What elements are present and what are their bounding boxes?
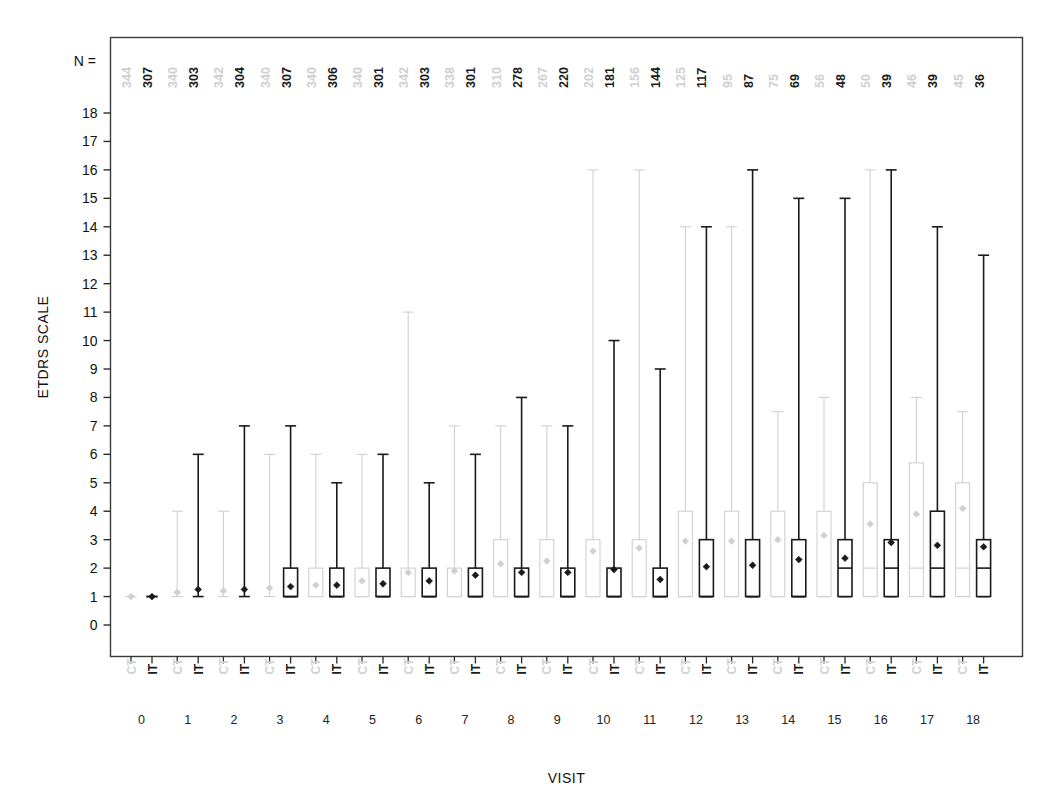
x-subgroup-label-ct-visit-7: CT bbox=[448, 658, 462, 675]
y-tick-label: 6 bbox=[90, 446, 98, 462]
n-value-ct-visit-8: 310 bbox=[490, 67, 504, 88]
box-it-visit-8 bbox=[515, 397, 529, 596]
y-tick-label: 3 bbox=[90, 532, 98, 548]
n-value-ct-visit-16: 50 bbox=[859, 74, 873, 88]
n-header: N =3443073403033423043403073403063403013… bbox=[74, 53, 987, 88]
x-subgroup-label-it-visit-4: IT bbox=[330, 663, 344, 674]
x-subgroup-label-it-visit-8: IT bbox=[515, 663, 529, 674]
mean-marker bbox=[174, 589, 181, 596]
n-value-ct-visit-15: 56 bbox=[813, 74, 827, 88]
box-rect bbox=[284, 568, 298, 596]
box-ct-visit-9 bbox=[540, 426, 554, 597]
mean-marker bbox=[149, 593, 156, 600]
x-group-label-15: 15 bbox=[828, 713, 842, 727]
n-value-ct-visit-18: 45 bbox=[952, 74, 966, 88]
x-group-label-16: 16 bbox=[874, 713, 888, 727]
box-rect bbox=[494, 540, 508, 597]
y-tick-label: 16 bbox=[82, 162, 98, 178]
n-equals-label: N = bbox=[74, 53, 96, 69]
n-value-it-visit-11: 144 bbox=[649, 67, 663, 88]
box-it-visit-9 bbox=[561, 426, 575, 597]
x-axis: CTIT0CTIT1CTIT2CTIT3CTIT4CTIT5CTIT6CTIT7… bbox=[125, 657, 992, 786]
x-group-label-4: 4 bbox=[323, 713, 330, 727]
box-ct-visit-3 bbox=[264, 454, 275, 596]
y-tick-label: 4 bbox=[90, 503, 98, 519]
box-ct-visit-4 bbox=[309, 454, 323, 596]
box-ct-visit-13 bbox=[725, 227, 739, 597]
x-group-label-11: 11 bbox=[643, 713, 656, 727]
n-value-ct-visit-10: 202 bbox=[582, 67, 596, 88]
y-tick-label: 5 bbox=[90, 475, 98, 491]
x-subgroup-label-it-visit-12: IT bbox=[700, 663, 714, 674]
box-ct-visit-11 bbox=[632, 170, 646, 597]
x-subgroup-label-ct-visit-2: CT bbox=[217, 658, 231, 675]
n-value-it-visit-5: 301 bbox=[372, 67, 386, 88]
y-tick-label: 11 bbox=[83, 304, 98, 320]
n-value-ct-visit-4: 340 bbox=[305, 67, 319, 88]
box-ct-visit-10 bbox=[586, 170, 600, 597]
x-subgroup-label-ct-visit-1: CT bbox=[171, 658, 185, 675]
x-axis-title: VISIT bbox=[548, 770, 586, 786]
mean-marker bbox=[128, 593, 135, 600]
x-subgroup-label-it-visit-6: IT bbox=[423, 663, 437, 674]
x-group-label-18: 18 bbox=[966, 713, 980, 727]
box-ct-visit-2 bbox=[218, 511, 229, 596]
x-subgroup-label-it-visit-17: IT bbox=[931, 663, 945, 674]
n-value-it-visit-4: 306 bbox=[326, 67, 340, 88]
y-tick-label: 9 bbox=[90, 361, 98, 377]
x-subgroup-label-ct-visit-12: CT bbox=[679, 658, 693, 675]
n-value-it-visit-12: 117 bbox=[695, 68, 709, 88]
y-tick-label: 13 bbox=[82, 247, 98, 263]
box-ct-visit-6 bbox=[401, 312, 415, 596]
box-it-visit-7 bbox=[468, 454, 482, 596]
x-group-label-10: 10 bbox=[597, 713, 611, 727]
n-value-ct-visit-0: 344 bbox=[120, 67, 134, 88]
box-ct-visit-0 bbox=[126, 593, 137, 600]
x-group-label-1: 1 bbox=[184, 713, 191, 727]
x-subgroup-label-it-visit-10: IT bbox=[608, 663, 622, 674]
box-it-visit-10 bbox=[607, 341, 621, 597]
box-it-visit-2 bbox=[239, 426, 250, 597]
y-tick-label: 10 bbox=[82, 333, 98, 349]
box-it-visit-4 bbox=[330, 483, 344, 597]
n-value-ct-visit-5: 340 bbox=[351, 67, 365, 88]
box-rect bbox=[817, 511, 831, 596]
x-group-label-7: 7 bbox=[461, 713, 468, 727]
box-rect bbox=[930, 511, 944, 596]
y-tick-label: 14 bbox=[82, 219, 98, 235]
n-value-it-visit-16: 39 bbox=[880, 74, 894, 88]
x-group-label-12: 12 bbox=[689, 713, 703, 727]
y-tick-label: 15 bbox=[82, 190, 98, 206]
x-subgroup-label-ct-visit-13: CT bbox=[725, 658, 739, 675]
x-subgroup-label-it-visit-0: IT bbox=[146, 663, 160, 674]
x-subgroup-label-ct-visit-17: CT bbox=[910, 658, 924, 675]
n-value-it-visit-9: 220 bbox=[557, 67, 571, 88]
box-it-visit-6 bbox=[422, 483, 436, 597]
n-value-ct-visit-1: 340 bbox=[166, 67, 180, 88]
x-group-label-3: 3 bbox=[277, 713, 284, 727]
n-value-it-visit-8: 278 bbox=[511, 67, 525, 88]
box-it-visit-16 bbox=[884, 170, 898, 597]
x-subgroup-label-ct-visit-11: CT bbox=[633, 658, 647, 675]
x-subgroup-label-it-visit-16: IT bbox=[885, 663, 899, 674]
n-value-it-visit-15: 48 bbox=[834, 74, 848, 88]
boxplot-figure: 0123456789101112131415161718ETDRS SCALEN… bbox=[0, 0, 1064, 799]
n-value-it-visit-0: 307 bbox=[141, 67, 155, 88]
x-subgroup-label-ct-visit-6: CT bbox=[402, 658, 416, 675]
n-value-ct-visit-7: 338 bbox=[443, 67, 457, 88]
n-value-it-visit-14: 69 bbox=[788, 74, 802, 88]
box-ct-visit-14 bbox=[771, 412, 785, 597]
mean-marker bbox=[241, 586, 248, 593]
y-tick-label: 17 bbox=[82, 133, 98, 149]
n-value-ct-visit-13: 95 bbox=[721, 74, 735, 88]
n-value-it-visit-17: 39 bbox=[926, 74, 940, 88]
box-ct-visit-7 bbox=[447, 426, 461, 597]
y-tick-label: 7 bbox=[90, 418, 98, 434]
x-subgroup-label-it-visit-11: IT bbox=[654, 663, 668, 674]
x-subgroup-label-it-visit-18: IT bbox=[977, 663, 991, 674]
x-group-label-5: 5 bbox=[369, 713, 376, 727]
y-tick-label: 2 bbox=[90, 560, 98, 576]
box-it-visit-12 bbox=[699, 227, 713, 597]
n-value-ct-visit-6: 342 bbox=[397, 67, 411, 88]
y-tick-label: 1 bbox=[90, 589, 98, 605]
